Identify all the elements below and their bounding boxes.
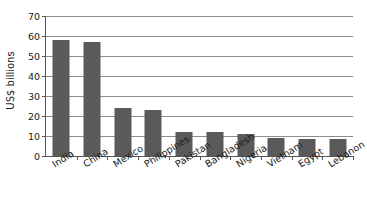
bar-india[interactable] xyxy=(53,40,70,156)
bar-slot xyxy=(77,16,108,156)
y-tick-label-0: 0 xyxy=(34,151,40,162)
y-axis-title: US$ billions xyxy=(0,0,20,160)
bar-slot xyxy=(46,16,77,156)
bar-slot xyxy=(261,16,292,156)
y-tick-mark-0 xyxy=(42,156,46,157)
x-tick-mark xyxy=(353,156,354,160)
bar-china[interactable] xyxy=(84,42,101,156)
bars-layer xyxy=(46,16,353,156)
y-tick-label-40: 40 xyxy=(28,71,40,82)
bar-slot xyxy=(107,16,138,156)
bar-slot xyxy=(322,16,353,156)
bar-slot xyxy=(200,16,231,156)
y-tick-label-70: 70 xyxy=(28,11,40,22)
x-axis-labels: IndiaChinaMexicoPhilippinesPakistanBangl… xyxy=(45,160,352,223)
y-axis-title-text: US$ billions xyxy=(5,51,16,109)
y-tick-label-60: 60 xyxy=(28,31,40,42)
bar-slot xyxy=(138,16,169,156)
y-tick-label-10: 10 xyxy=(28,131,40,142)
y-tick-label-50: 50 xyxy=(28,51,40,62)
plot-area: 010203040506070 xyxy=(45,16,353,157)
y-tick-label-30: 30 xyxy=(28,91,40,102)
bar-slot xyxy=(292,16,323,156)
y-tick-label-20: 20 xyxy=(28,111,40,122)
